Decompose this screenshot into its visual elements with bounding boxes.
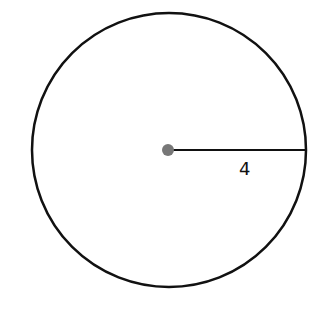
radius-label: 4 [239, 160, 250, 178]
center-point [162, 144, 174, 156]
circle-diagram [0, 0, 322, 317]
